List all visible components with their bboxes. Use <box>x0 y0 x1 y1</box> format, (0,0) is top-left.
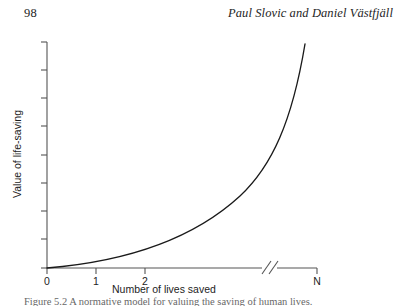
x-tick-label-n: N <box>307 275 327 287</box>
book-page: 98 Paul Slovic and Daniel Västfjäll <box>0 0 415 306</box>
x-axis-ticks <box>47 268 317 274</box>
x-tick-label-0: 0 <box>37 275 57 287</box>
x-tick-label-2: 2 <box>135 275 155 287</box>
value-of-life-saving-chart <box>0 30 415 292</box>
y-axis-ticks <box>41 42 47 268</box>
y-axis-title: Value of life-saving <box>11 94 23 214</box>
axis-break-icon <box>262 261 278 274</box>
page-number: 98 <box>24 6 37 21</box>
x-axis-title: Number of lives saved <box>112 283 216 295</box>
figure-container: Value of life-saving Number of lives sav… <box>0 30 415 292</box>
value-curve <box>47 44 305 268</box>
x-tick-label-1: 1 <box>86 275 106 287</box>
running-head-authors: Paul Slovic and Daniel Västfjäll <box>228 6 393 21</box>
running-head: 98 Paul Slovic and Daniel Västfjäll <box>0 6 415 26</box>
figure-caption: Figure 5.2 A normative model for valuing… <box>24 296 396 306</box>
